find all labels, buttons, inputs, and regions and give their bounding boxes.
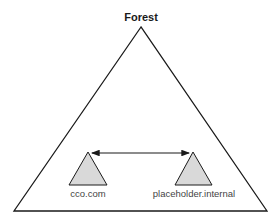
forest-diagram: Forest cco.com placeholder.internal: [0, 0, 280, 222]
domain-triangle-cco: [69, 152, 107, 185]
domain-triangle-placeholder: [175, 152, 212, 185]
forest-triangle: [14, 27, 267, 211]
domain-label-placeholder: placeholder.internal: [153, 188, 235, 199]
diagram-svg: Forest cco.com placeholder.internal: [0, 0, 280, 222]
domain-label-cco: cco.com: [70, 188, 105, 199]
forest-title: Forest: [124, 11, 158, 23]
